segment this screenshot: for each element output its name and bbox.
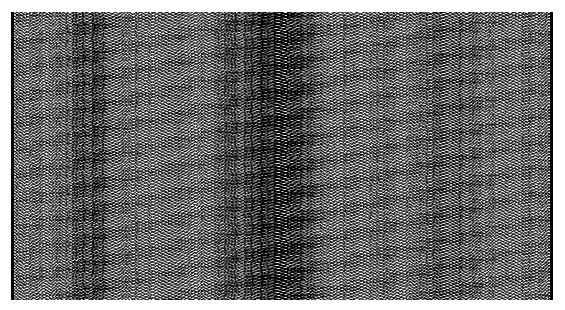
seismic-wiggle-plot-panel [11, 12, 553, 300]
figure-root [0, 0, 565, 310]
wiggle-trace-canvas [11, 12, 553, 300]
right-axis-spine [550, 12, 553, 300]
left-axis-spine [11, 12, 14, 300]
